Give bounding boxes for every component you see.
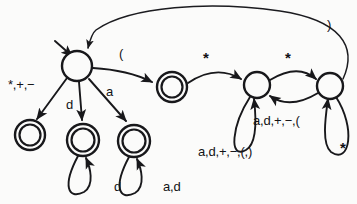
state-accepting-open-paren-inner bbox=[162, 77, 183, 98]
label-self-loop-number-state: d bbox=[114, 180, 121, 193]
fsm-diagram: *,+,− d a ( * * a,d,+,−,( a,d,+,−,(,) * … bbox=[0, 0, 357, 204]
label-transition-start-to-operator: *,+,− bbox=[8, 78, 34, 91]
state-comment-star[interactable] bbox=[317, 73, 343, 99]
label-transition-start-to-number: d bbox=[66, 98, 73, 111]
self-loop-number bbox=[69, 156, 91, 194]
state-accepting-operator-inner bbox=[20, 125, 41, 146]
label-transition-start-to-identifier: a bbox=[106, 85, 113, 98]
label-self-loop-star-state: * bbox=[340, 140, 346, 155]
label-transition-star-back-to-comment: a,d,+,−,( bbox=[253, 114, 300, 127]
edge-star-to-start-return bbox=[88, 6, 348, 79]
state-start[interactable] bbox=[62, 51, 92, 81]
label-self-loop-identifier-state: a,d bbox=[163, 180, 180, 193]
state-accepting-number-inner bbox=[72, 129, 95, 152]
label-transition-open-paren-to-comment: * bbox=[203, 50, 209, 65]
label-transition-star-to-start-close-paren: ) bbox=[327, 18, 331, 31]
edge-start-to-open-paren bbox=[93, 68, 152, 82]
label-transition-comment-to-star: * bbox=[285, 50, 291, 65]
edge-start-to-operator bbox=[37, 78, 67, 119]
self-loop-identifier bbox=[120, 157, 142, 195]
edge-open-paren-to-comment bbox=[188, 72, 241, 83]
edge-start-to-number bbox=[79, 82, 82, 120]
state-accepting-identifier-inner bbox=[123, 130, 146, 153]
fsm-canvas bbox=[0, 0, 357, 204]
label-self-loop-comment-state: a,d,+,−,(,) bbox=[198, 145, 252, 158]
state-comment-inner[interactable] bbox=[244, 72, 270, 98]
edge-star-to-comment bbox=[270, 93, 318, 102]
edge-comment-to-star bbox=[270, 71, 316, 80]
label-transition-start-to-open-paren: ( bbox=[119, 47, 123, 60]
